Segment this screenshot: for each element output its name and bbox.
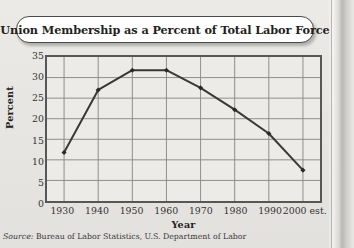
y-tick-label: 20 bbox=[32, 113, 44, 124]
plot-area bbox=[45, 55, 322, 203]
y-tick-label: 0 bbox=[38, 198, 44, 209]
source-text: Bureau of Labor Statistics, U.S. Departm… bbox=[33, 232, 246, 241]
data-line bbox=[64, 70, 303, 170]
x-tick-label: 2000 est. bbox=[283, 205, 327, 216]
x-tick-label: 1930 bbox=[50, 205, 74, 216]
line-series bbox=[47, 57, 320, 201]
page-title: Union Membership as a Percent of Total L… bbox=[0, 23, 329, 37]
page-edge-line bbox=[331, 0, 332, 248]
y-tick-label: 30 bbox=[32, 71, 44, 82]
x-tick-label: 1970 bbox=[189, 205, 213, 216]
y-tick-label: 15 bbox=[32, 134, 44, 145]
chart-title-pill: Union Membership as a Percent of Total L… bbox=[16, 16, 314, 43]
x-tick-label: 1980 bbox=[224, 205, 248, 216]
x-tick-label: 1960 bbox=[154, 205, 178, 216]
x-axis-title: Year bbox=[45, 219, 322, 230]
y-axis-title: Percent bbox=[4, 86, 15, 129]
y-axis-tick-labels: 05101520253035 bbox=[22, 55, 44, 203]
x-axis-tick-labels: 19301940195019601970198019902000 est. bbox=[45, 205, 322, 219]
page-background: Union Membership as a Percent of Total L… bbox=[0, 0, 354, 248]
x-tick-label: 1950 bbox=[120, 205, 144, 216]
source-prefix: Source: bbox=[3, 232, 33, 241]
y-tick-label: 25 bbox=[32, 92, 44, 103]
y-tick-label: 35 bbox=[32, 50, 44, 61]
x-tick-label: 1990 bbox=[258, 205, 282, 216]
source-note: Source: Bureau of Labor Statistics, U.S.… bbox=[3, 232, 246, 241]
y-tick-label: 5 bbox=[38, 176, 44, 187]
x-tick-label: 1940 bbox=[85, 205, 109, 216]
y-tick-label: 10 bbox=[32, 155, 44, 166]
